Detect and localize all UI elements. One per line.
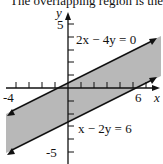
y-axis-arrow-icon xyxy=(65,12,71,20)
x-tick-label-neg4: -4 xyxy=(3,90,14,105)
x-tick-label-6: 6 xyxy=(135,90,142,105)
y-tick-label-neg5: -5 xyxy=(46,145,57,160)
x-axis-label: x xyxy=(153,90,160,105)
graph: y 5 -5 -4 6 x 2x − 4y = 0 x − 2y = 6 xyxy=(0,0,163,164)
equation-label-2: x − 2y = 6 xyxy=(78,121,132,136)
y-tick-label-5: 5 xyxy=(57,17,64,32)
equation-label-1: 2x − 4y = 0 xyxy=(76,32,136,47)
